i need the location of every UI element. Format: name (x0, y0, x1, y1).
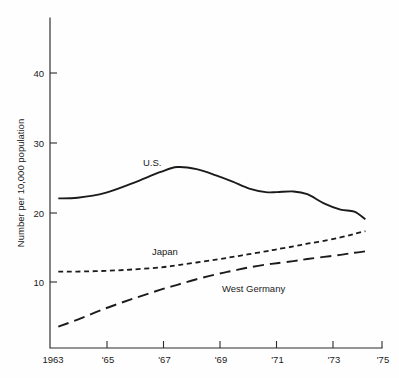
x-tick-label-1967: '67 (158, 354, 170, 365)
series-label-us: U.S. (143, 157, 161, 168)
line-chart: 40 30 20 10 1963 '65 '67 '69 '71 '73 '75… (0, 0, 399, 378)
y-axis-ticks (50, 73, 57, 282)
axis-spine (50, 18, 382, 348)
x-tick-label-1965: '65 (102, 354, 114, 365)
x-tick-label-1975: '75 (377, 354, 389, 365)
y-tick-label-30: 30 (33, 138, 44, 149)
x-tick-label-1973: '73 (328, 354, 340, 365)
series-line-west-germany (58, 251, 365, 326)
y-axis-title: Number per 10,000 population (15, 119, 26, 247)
y-tick-label-40: 40 (33, 68, 44, 79)
series-line-japan (58, 231, 365, 271)
x-axis-ticks (107, 341, 382, 348)
y-tick-label-20: 20 (33, 208, 44, 219)
series-label-japan: Japan (152, 246, 178, 257)
y-axis-tick-labels: 40 30 20 10 (33, 68, 44, 288)
series-label-west-germany: West Germany (222, 283, 285, 294)
x-axis-tick-labels: 1963 '65 '67 '69 '71 '73 '75 (42, 354, 389, 365)
y-tick-label-10: 10 (33, 277, 44, 288)
figure-container: 40 30 20 10 1963 '65 '67 '69 '71 '73 '75… (0, 0, 399, 378)
x-tick-label-1971: '71 (271, 354, 283, 365)
series-line-us (58, 167, 365, 219)
x-tick-label-1963: 1963 (42, 354, 63, 365)
x-tick-label-1969: '69 (215, 354, 227, 365)
